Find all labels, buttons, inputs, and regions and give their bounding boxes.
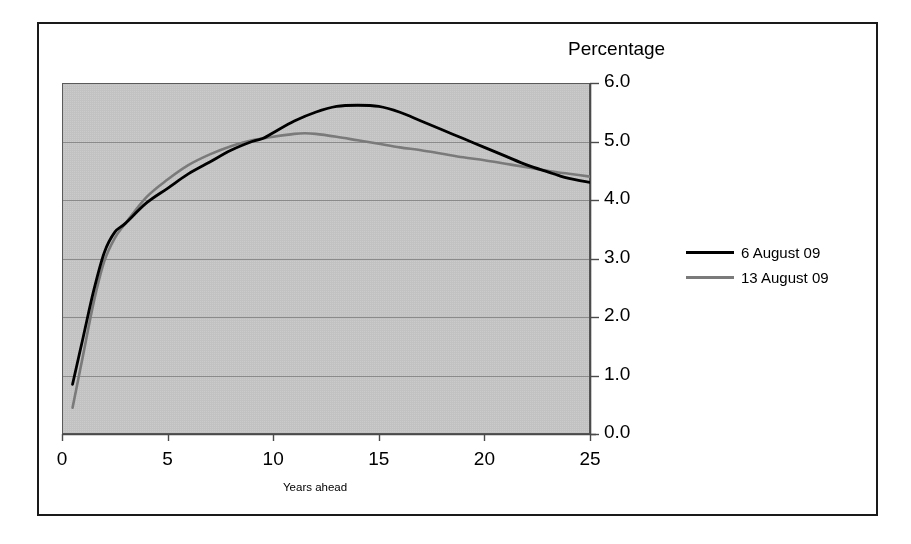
- y-axis-tick-1.0: 1.0: [604, 363, 630, 385]
- x-axis-tick-20: 20: [474, 448, 495, 470]
- x-axis-tick-5: 5: [162, 448, 173, 470]
- x-axis-tick-10: 10: [263, 448, 284, 470]
- chart-legend: 6 August 09 13 August 09: [686, 240, 856, 290]
- y-axis-title: Percentage: [568, 38, 665, 60]
- legend-item-series-1: 13 August 09: [686, 265, 856, 290]
- legend-label: 13 August 09: [741, 269, 829, 286]
- legend-line-swatch-icon: [686, 276, 734, 279]
- x-axis-tick-25: 25: [579, 448, 600, 470]
- x-axis-tick-15: 15: [368, 448, 389, 470]
- y-axis-tick-0.0: 0.0: [604, 421, 630, 443]
- legend-label: 6 August 09: [741, 244, 820, 261]
- legend-item-series-0: 6 August 09: [686, 240, 856, 265]
- legend-line-swatch-icon: [686, 251, 734, 254]
- y-axis-tick-2.0: 2.0: [604, 304, 630, 326]
- y-axis-tick-3.0: 3.0: [604, 246, 630, 268]
- y-axis-tick-6.0: 6.0: [604, 70, 630, 92]
- x-axis-title: Years ahead: [283, 481, 347, 493]
- y-axis-tick-5.0: 5.0: [604, 129, 630, 151]
- x-axis-tick-0: 0: [57, 448, 68, 470]
- y-axis-tick-4.0: 4.0: [604, 187, 630, 209]
